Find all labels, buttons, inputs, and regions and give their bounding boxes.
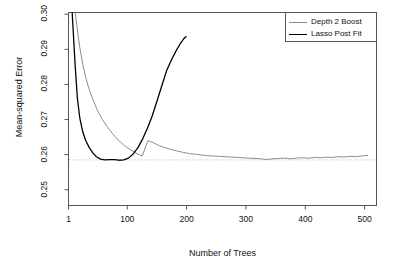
y-axis-title: Mean-squared Error bbox=[14, 52, 24, 142]
legend-swatch-icon bbox=[289, 22, 307, 23]
x-tick-label: 1 bbox=[49, 215, 89, 224]
tick-marks bbox=[65, 14, 365, 209]
legend-item-depth-2-boost: Depth 2 Boost bbox=[289, 16, 376, 28]
y-tick-label: 0.27 bbox=[39, 104, 48, 134]
x-axis-title: Number of Trees bbox=[68, 248, 377, 258]
y-tick-label: 0.26 bbox=[39, 139, 48, 169]
y-tick-label: 0.28 bbox=[39, 69, 48, 99]
chart-legend: Depth 2 Boost Lasso Post Fit bbox=[285, 12, 377, 42]
y-tick-label: 0.25 bbox=[39, 174, 48, 204]
legend-swatch-icon bbox=[289, 34, 307, 35]
x-tick-label: 200 bbox=[167, 215, 207, 224]
legend-label: Lasso Post Fit bbox=[311, 30, 362, 38]
x-tick-label: 100 bbox=[107, 215, 147, 224]
series-line-lasso-post-fit bbox=[71, 0, 186, 160]
y-tick-label: 0.30 bbox=[39, 0, 48, 29]
x-tick-label: 400 bbox=[285, 215, 325, 224]
legend-label: Depth 2 Boost bbox=[311, 18, 362, 26]
y-tick-label: 0.29 bbox=[39, 34, 48, 64]
x-tick-label: 300 bbox=[226, 215, 266, 224]
chart-figure: 0.250.260.270.280.290.30 110020030040050… bbox=[0, 0, 393, 273]
x-tick-label: 500 bbox=[345, 215, 385, 224]
legend-item-lasso-post-fit: Lasso Post Fit bbox=[289, 28, 376, 40]
